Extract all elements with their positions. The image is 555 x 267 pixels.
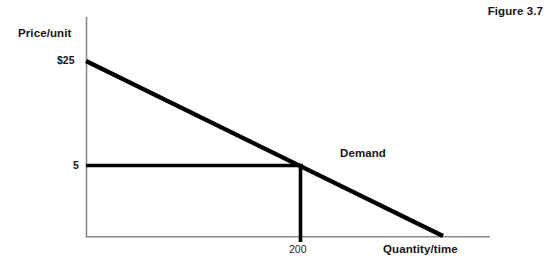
figure-container: Figure 3.7 Price/unit $25 5 200 Quantity… xyxy=(0,0,555,267)
demand-curve-chart xyxy=(0,0,555,267)
x-axis-title: Quantity/time xyxy=(383,244,458,256)
figure-caption: Figure 3.7 xyxy=(488,6,543,18)
y-axis-tick-label-25: $25 xyxy=(57,55,75,66)
demand-curve-line xyxy=(86,61,443,236)
y-axis-title: Price/unit xyxy=(18,28,71,40)
demand-curve-label: Demand xyxy=(340,148,386,160)
x-axis-tick-label-200: 200 xyxy=(289,244,307,255)
y-axis-tick-label-5: 5 xyxy=(73,160,79,171)
